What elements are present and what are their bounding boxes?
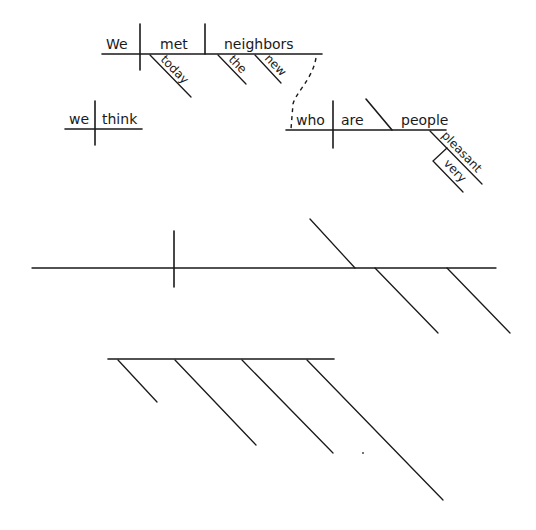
predicate-slash bbox=[366, 99, 392, 130]
blank-slash-2 bbox=[175, 360, 256, 445]
predicate-word: people bbox=[401, 112, 448, 128]
subject-word: We bbox=[106, 36, 128, 52]
modifier-word-new: new bbox=[262, 51, 289, 79]
blank-predicate-slash bbox=[310, 219, 355, 268]
blank-modifier-slash-2 bbox=[447, 268, 510, 333]
sentence-diagram: We met neighbors today the new we think … bbox=[0, 0, 536, 530]
stray-dot bbox=[362, 452, 364, 454]
blank-slash-4 bbox=[307, 360, 443, 500]
object-word: neighbors bbox=[224, 36, 294, 52]
verb-word: met bbox=[160, 36, 188, 52]
blank-slash-1 bbox=[118, 360, 157, 402]
parenthetical-verb: think bbox=[102, 111, 138, 127]
parenthetical-clause: we think bbox=[65, 101, 142, 145]
modifier-word-today: today bbox=[158, 52, 192, 86]
modifier-word-the: the bbox=[226, 52, 250, 76]
parenthetical-subject: we bbox=[69, 111, 89, 127]
blank-diagram-1 bbox=[32, 219, 510, 333]
blank-modifier-slash-1 bbox=[375, 268, 438, 333]
relative-verb: are bbox=[341, 112, 364, 128]
blank-slash-3 bbox=[242, 360, 333, 453]
relative-subject: who bbox=[296, 112, 325, 128]
blank-diagram-2 bbox=[108, 359, 443, 500]
relative-clause: who are people pleasant very bbox=[286, 99, 485, 192]
